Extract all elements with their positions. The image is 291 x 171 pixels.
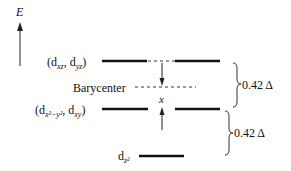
label-sub: z² — [124, 156, 130, 165]
label-top-level: (dxz, dyz) — [47, 56, 86, 71]
brace-lower — [225, 111, 233, 155]
label-sub: x²−y² — [45, 110, 62, 119]
energy-axis-arrowhead-icon — [17, 22, 23, 31]
down-arrowhead-icon — [160, 78, 165, 86]
brace-upper — [233, 63, 241, 107]
up-arrowhead-icon — [160, 107, 165, 115]
label-part: (d — [35, 103, 45, 117]
gap-label-lower: 0.42 Δ — [234, 127, 265, 139]
shift-label: x — [159, 94, 164, 105]
gap-label-upper: 0.42 Δ — [242, 79, 273, 91]
energy-axis-label: E — [16, 6, 23, 18]
label-middle-level: (dx²−y², dxy) — [35, 104, 85, 119]
label-barycenter: Barycenter — [73, 82, 126, 94]
label-part: ) — [82, 55, 86, 69]
label-part: , d — [62, 103, 74, 117]
label-sub: xz — [57, 62, 64, 71]
label-part: (d — [47, 55, 57, 69]
label-part: ) — [81, 103, 85, 117]
label-part: , d — [64, 55, 76, 69]
label-bottom-level: dz² — [118, 150, 130, 165]
